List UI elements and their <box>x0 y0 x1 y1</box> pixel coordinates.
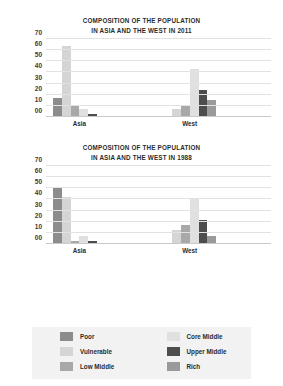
legend-swatch <box>60 332 73 341</box>
chart-1988: COMPOSITION OF THE POPULATION IN ASIA AN… <box>0 143 283 258</box>
y-axis-tick-label: 10 <box>35 95 42 102</box>
gridline <box>46 105 271 106</box>
legend-swatch <box>60 347 73 356</box>
legend-item: Poor <box>60 331 145 342</box>
gridline <box>46 165 271 166</box>
bar <box>181 225 190 244</box>
y-axis-tick-label: 30 <box>35 200 42 207</box>
legend-item-label: Upper Middle <box>187 348 227 355</box>
bar <box>53 98 62 117</box>
y-axis-tick-label: 00 <box>35 234 42 241</box>
legend-item: Low Middle <box>60 361 145 372</box>
y-axis-tick-label: 50 <box>35 51 42 58</box>
y-axis-tick-label: 40 <box>35 189 42 196</box>
chart-title-2011-line2: IN ASIA AND THE WEST IN 2011 <box>0 26 283 36</box>
plot-area-2011: 7060504030201000AsiaWest <box>0 39 283 131</box>
legend-item: Upper Middle <box>167 346 252 357</box>
x-axis-label: Asia <box>73 247 86 254</box>
y-axis-tick-label: 40 <box>35 62 42 69</box>
legend-column-left: PoorVulnerableLow Middle <box>32 331 145 379</box>
y-axis-tick-label: 20 <box>35 211 42 218</box>
gridline <box>46 176 271 177</box>
gridline <box>46 49 271 50</box>
x-axis-label: West <box>182 120 197 127</box>
legend-item-label: Poor <box>80 333 94 340</box>
x-axis-label: Asia <box>73 120 86 127</box>
plot-2011: 7060504030201000AsiaWest <box>46 39 271 117</box>
y-axis-tick-label: 70 <box>35 156 42 163</box>
y-axis-tick-label: 30 <box>35 73 42 80</box>
y-axis-tick-label: 00 <box>35 107 42 114</box>
chart-2011: COMPOSITION OF THE POPULATION IN ASIA AN… <box>0 16 283 131</box>
gridline <box>46 38 271 39</box>
gridline <box>46 71 271 72</box>
gridline <box>46 187 271 188</box>
gridline <box>46 94 271 95</box>
legend-item-label: Low Middle <box>80 363 114 370</box>
chart-title-1988-line1: COMPOSITION OF THE POPULATION <box>0 143 283 153</box>
legend-column-right: Core MiddleUpper MiddleRich <box>145 331 252 379</box>
gridline <box>46 198 271 199</box>
plot-area-1988: 7060504030201000AsiaWest <box>0 166 283 258</box>
legend-item-label: Vulnerable <box>80 348 112 355</box>
gridline <box>46 210 271 211</box>
bar <box>53 188 62 244</box>
legend-swatch <box>167 362 180 371</box>
legend-item: Vulnerable <box>60 346 145 357</box>
chart-title-1988: COMPOSITION OF THE POPULATION IN ASIA AN… <box>0 143 283 162</box>
x-axis-line <box>46 116 271 117</box>
y-axis-tick-label: 10 <box>35 222 42 229</box>
bar <box>62 46 71 117</box>
y-axis-tick-label: 20 <box>35 84 42 91</box>
chart-title-2011: COMPOSITION OF THE POPULATION IN ASIA AN… <box>0 16 283 35</box>
gridline <box>46 83 271 84</box>
y-axis-tick-label: 60 <box>35 167 42 174</box>
gridline <box>46 221 271 222</box>
chart-title-2011-line1: COMPOSITION OF THE POPULATION <box>0 16 283 26</box>
chart-title-1988-line2: IN ASIA AND THE WEST IN 1988 <box>0 153 283 163</box>
legend-swatch <box>60 362 73 371</box>
chart-legend: PoorVulnerableLow Middle Core MiddleUppe… <box>32 327 251 379</box>
legend-item: Rich <box>167 361 252 372</box>
legend-swatch <box>167 347 180 356</box>
y-axis-tick-label: 50 <box>35 178 42 185</box>
figure-page: COMPOSITION OF THE POPULATION IN ASIA AN… <box>0 16 283 386</box>
bar <box>207 100 216 117</box>
legend-item-label: Rich <box>187 363 201 370</box>
x-axis-line <box>46 243 271 244</box>
gridline <box>46 60 271 61</box>
bar <box>190 199 199 244</box>
x-axis-label: West <box>182 247 197 254</box>
gridline <box>46 232 271 233</box>
legend-swatch <box>167 332 180 341</box>
y-axis-tick-label: 70 <box>35 29 42 36</box>
legend-columns: PoorVulnerableLow Middle Core MiddleUppe… <box>32 327 251 379</box>
legend-item-label: Core Middle <box>187 333 223 340</box>
plot-1988: 7060504030201000AsiaWest <box>46 166 271 244</box>
y-axis-tick-label: 60 <box>35 40 42 47</box>
legend-item: Core Middle <box>167 331 252 342</box>
